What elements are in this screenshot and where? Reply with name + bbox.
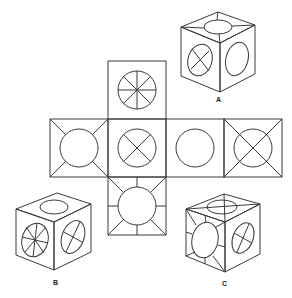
cube-net [50,61,282,235]
option-cube-c[interactable] [186,194,260,272]
cube-puzzle-diagram [0,0,292,298]
option-label-c: C [222,280,227,287]
option-label-b: B [53,279,58,286]
net-face-top [108,61,166,119]
net-face-middle-center-right [166,119,224,177]
net-face-bottom [108,177,166,235]
net-face-middle-right [224,119,282,177]
option-label-a: A [216,96,221,103]
option-cube-a[interactable] [181,12,255,92]
net-face-middle-center [108,119,166,177]
option-cube-b[interactable] [16,193,91,270]
net-face-middle-left [50,119,108,177]
